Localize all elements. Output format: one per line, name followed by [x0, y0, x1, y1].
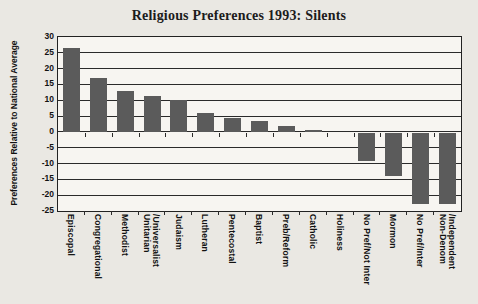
x-category-label: Unitarian /Universalist [142, 214, 161, 267]
gridline [58, 84, 461, 85]
zero-axis-tick [112, 133, 113, 137]
gridline [58, 68, 461, 69]
bar [117, 91, 134, 132]
y-tick-label: 20 [20, 63, 54, 73]
bottom-axis-tick [406, 211, 407, 215]
bar [144, 96, 161, 132]
x-category-label-slot: Pentecostal [218, 214, 245, 302]
y-tick-label: -5 [20, 142, 54, 152]
x-category-label: Methodist [119, 214, 128, 256]
x-category-label: Catholic [308, 214, 317, 249]
bottom-axis-tick [164, 211, 165, 215]
x-category-label-slot: No Pref/Inter [406, 214, 433, 302]
y-tick-label: -15 [20, 173, 54, 183]
x-category-label: Episcopal [66, 214, 75, 256]
zero-axis-tick [380, 133, 381, 137]
bar [90, 78, 107, 132]
x-category-label: Pentecostal [227, 214, 236, 264]
x-category-label: Baptist [254, 214, 263, 244]
x-category-label-slot: Judaism [164, 214, 191, 302]
x-category-label-slot: No Pref/Not Inter [353, 214, 380, 302]
x-category-label: Mormon [388, 214, 397, 249]
y-axis-title: Preferences Relative to National Average [9, 40, 19, 205]
bottom-axis-tick [218, 211, 219, 215]
x-category-label: No Pref/Not Inter [361, 214, 370, 285]
gridline [58, 179, 461, 180]
zero-axis-tick [246, 133, 247, 137]
bar [197, 113, 214, 132]
x-category-label-slot: Holiness [326, 214, 353, 302]
zero-axis-tick [327, 133, 328, 137]
zero-axis-tick [354, 133, 355, 137]
plot-area [57, 36, 462, 212]
bar [63, 48, 80, 132]
gridline [58, 195, 461, 196]
zero-axis-tick [434, 133, 435, 137]
bar [385, 133, 402, 176]
x-category-label: Preb/Reform [281, 214, 290, 267]
y-tick-label: 5 [20, 110, 54, 120]
y-tick-label: -20 [20, 189, 54, 199]
bottom-axis-tick [326, 211, 327, 215]
bar [358, 133, 375, 161]
bar [251, 121, 268, 132]
zero-axis-tick [219, 133, 220, 137]
x-category-label: Congregational [93, 214, 102, 279]
bar [278, 126, 295, 132]
bottom-axis-tick [433, 211, 434, 215]
x-category-label: Lutheran [200, 214, 209, 252]
gridline [58, 52, 461, 53]
bar [439, 133, 456, 204]
zero-axis-tick [85, 133, 86, 137]
chart-figure: Religious Preferences 1993: Silents Pref… [0, 0, 478, 304]
bar [224, 118, 241, 132]
y-tick-label: 15 [20, 78, 54, 88]
zero-axis-tick [407, 133, 408, 137]
y-tick-label: 30 [20, 31, 54, 41]
zero-axis-tick [139, 133, 140, 137]
zero-axis-tick [273, 133, 274, 137]
bar [170, 100, 187, 132]
x-category-label-slot: Mormon [379, 214, 406, 302]
x-category-label: Judaism [173, 214, 182, 250]
bottom-axis-tick [379, 211, 380, 215]
bottom-axis-tick [138, 211, 139, 215]
x-category-label-slot: Methodist [111, 214, 138, 302]
bottom-axis-tick [84, 211, 85, 215]
zero-axis-tick [192, 133, 193, 137]
y-tick-label: 0 [20, 126, 54, 136]
bottom-axis-tick [272, 211, 273, 215]
x-category-label-slot: Baptist [245, 214, 272, 302]
bar [305, 130, 322, 132]
y-tick-label: -10 [20, 158, 54, 168]
y-tick-label: -25 [20, 205, 54, 215]
x-category-label-slot: Congregational [84, 214, 111, 302]
bottom-axis-tick [245, 211, 246, 215]
x-category-label: Holiness [334, 214, 343, 251]
x-category-label-slot: Episcopal [57, 214, 84, 302]
bottom-axis-tick [299, 211, 300, 215]
x-category-label-slot: Lutheran [191, 214, 218, 302]
zero-axis-tick [300, 133, 301, 137]
chart-title: Religious Preferences 1993: Silents [0, 8, 478, 24]
y-tick-label: 25 [20, 47, 54, 57]
x-category-label: Non-Denom /Independent [437, 214, 456, 269]
x-category-label-slot: Non-Denom /Independent [433, 214, 460, 302]
x-category-label-slot: Preb/Reform [272, 214, 299, 302]
bottom-axis-tick [111, 211, 112, 215]
x-category-label-slot: Unitarian /Universalist [138, 214, 165, 302]
bottom-axis-tick [191, 211, 192, 215]
x-category-label: No Pref/Inter [415, 214, 424, 268]
zero-axis-tick [165, 133, 166, 137]
bar [412, 133, 429, 204]
y-tick-label: 10 [20, 94, 54, 104]
bottom-axis-tick [353, 211, 354, 215]
x-category-label-slot: Catholic [299, 214, 326, 302]
